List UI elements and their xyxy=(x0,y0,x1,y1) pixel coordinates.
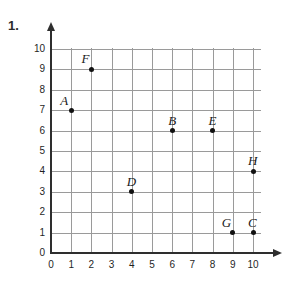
data-point xyxy=(230,230,235,235)
x-tick-label: 8 xyxy=(205,259,221,270)
y-tick-label: 6 xyxy=(29,125,45,136)
y-axis xyxy=(50,30,52,254)
point-label: D xyxy=(127,174,136,190)
arrow-right-icon xyxy=(273,249,282,257)
grid-line-horizontal xyxy=(51,171,261,172)
data-point xyxy=(210,128,215,133)
x-tick-label: 5 xyxy=(144,259,160,270)
grid-line-horizontal xyxy=(51,212,261,213)
y-tick-label: 8 xyxy=(29,84,45,95)
arrow-up-icon xyxy=(47,22,55,31)
y-tick-label: 3 xyxy=(29,186,45,197)
point-label: B xyxy=(168,113,176,129)
x-axis xyxy=(50,252,273,254)
grid-line-horizontal xyxy=(51,69,261,70)
point-label: A xyxy=(60,93,68,109)
data-point xyxy=(129,189,134,194)
x-tick-label: 3 xyxy=(104,259,120,270)
point-label: E xyxy=(209,113,217,129)
x-tick-label: 6 xyxy=(164,259,180,270)
coordinate-plane: 012345678910012345678910 ABCDEFGH xyxy=(0,0,291,283)
x-tick-label: 4 xyxy=(124,259,140,270)
x-tick-label: 7 xyxy=(184,259,200,270)
x-tick-label: 10 xyxy=(245,259,261,270)
y-tick-label: 4 xyxy=(29,165,45,176)
y-tick-label: 5 xyxy=(29,145,45,156)
y-tick-label: 9 xyxy=(29,63,45,74)
x-tick-label: 0 xyxy=(43,259,59,270)
grid-line-horizontal xyxy=(51,192,261,193)
data-point xyxy=(89,67,94,72)
grid-line-horizontal xyxy=(51,90,261,91)
y-tick-label: 2 xyxy=(29,206,45,217)
y-tick-label: 1 xyxy=(29,227,45,238)
grid-line-horizontal xyxy=(51,151,261,152)
x-tick-label: 1 xyxy=(63,259,79,270)
x-tick-label: 9 xyxy=(225,259,241,270)
data-point xyxy=(69,108,74,113)
point-label: F xyxy=(81,51,89,67)
data-point xyxy=(170,128,175,133)
y-tick-label: 10 xyxy=(29,43,45,54)
grid-line-horizontal xyxy=(51,110,261,111)
y-tick-label: 0 xyxy=(29,247,45,258)
x-tick-label: 2 xyxy=(83,259,99,270)
point-label: H xyxy=(248,153,257,169)
data-point xyxy=(251,230,256,235)
y-tick-label: 7 xyxy=(29,104,45,115)
point-label: C xyxy=(248,215,257,231)
point-label: G xyxy=(222,215,231,231)
grid-line-horizontal xyxy=(51,49,261,50)
data-point xyxy=(251,169,256,174)
grid-line-horizontal xyxy=(51,131,261,132)
